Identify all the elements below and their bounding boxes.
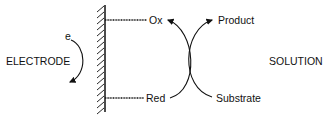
- substrate-to-product-arrow: [189, 20, 212, 97]
- electron-transfer-arrow: [70, 40, 83, 82]
- ox-label: Ox: [149, 14, 162, 26]
- product-label: Product: [218, 14, 254, 26]
- substrate-label: Substrate: [216, 92, 261, 104]
- electrode-surface: [97, 5, 105, 114]
- electron-label: e: [65, 30, 71, 42]
- solution-label: SOLUTION: [269, 55, 323, 67]
- mediated-electron-transfer-diagram: ELECTRODE e Ox Red Product Substrate SOL…: [0, 0, 327, 115]
- red-label: Red: [146, 92, 165, 104]
- red-to-ox-arrow: [168, 20, 191, 98]
- electrode-label: ELECTRODE: [6, 55, 70, 67]
